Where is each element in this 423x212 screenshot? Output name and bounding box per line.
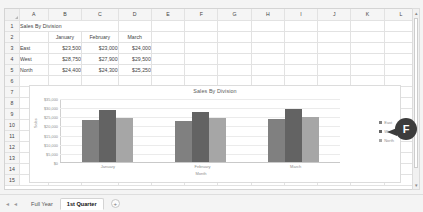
cell-a5-north[interactable]: North: [19, 64, 48, 75]
cell-c4[interactable]: $27,900: [82, 53, 119, 64]
cell-k2[interactable]: [351, 31, 384, 42]
cell-a3-east[interactable]: East: [19, 42, 48, 53]
cell-k4[interactable]: [351, 53, 384, 64]
cell-f3[interactable]: [185, 42, 218, 53]
embedded-chart[interactable]: Sales By Division Sales $35,000 $30,000 …: [29, 85, 401, 183]
cell-k3[interactable]: [351, 42, 384, 53]
legend-item-north[interactable]: North: [379, 138, 394, 143]
column-header-f[interactable]: F: [185, 9, 218, 20]
cell-j2[interactable]: [318, 31, 351, 42]
cell-d2-march[interactable]: March: [118, 31, 151, 42]
row-header-10[interactable]: 10: [5, 119, 19, 130]
vertical-scrollbar[interactable]: ▴ ▾: [412, 8, 420, 190]
cell-b5[interactable]: $24,400: [48, 64, 81, 75]
cell-f2[interactable]: [185, 31, 218, 42]
column-header-c[interactable]: C: [82, 9, 119, 20]
cell-d1[interactable]: [118, 20, 151, 31]
row-header-7[interactable]: 7: [5, 86, 19, 97]
cell-g4[interactable]: [218, 53, 251, 64]
column-header-e[interactable]: E: [151, 9, 184, 20]
row-header-1[interactable]: 1: [5, 20, 19, 31]
cell-b4[interactable]: $28,750: [48, 53, 81, 64]
legend-item-east[interactable]: East: [379, 120, 394, 125]
cell-i5[interactable]: [284, 64, 317, 75]
cell-g1[interactable]: [218, 20, 251, 31]
bar-west-february[interactable]: [192, 112, 209, 162]
cell-a4-west[interactable]: West: [19, 53, 48, 64]
bar-west-january[interactable]: [99, 110, 116, 162]
cell-e1[interactable]: [151, 20, 184, 31]
cell-f1[interactable]: [185, 20, 218, 31]
cell-c5[interactable]: $24,300: [82, 64, 119, 75]
row-header-15[interactable]: 15: [5, 174, 19, 185]
select-all-corner[interactable]: [5, 9, 19, 20]
cell-h2[interactable]: [251, 31, 284, 42]
bar-west-march[interactable]: [285, 109, 302, 162]
row-header-3[interactable]: 3: [5, 42, 19, 53]
cell-k5[interactable]: [351, 64, 384, 75]
scroll-up-arrow-icon[interactable]: ▴: [413, 9, 419, 17]
cell-d4[interactable]: $29,500: [118, 53, 151, 64]
cell-j1[interactable]: [318, 20, 351, 31]
column-header-h[interactable]: H: [251, 9, 284, 20]
cell-d3[interactable]: $24,000: [118, 42, 151, 53]
cell-g3[interactable]: [218, 42, 251, 53]
row-header-6[interactable]: 6: [5, 75, 19, 86]
row-header-9[interactable]: 9: [5, 108, 19, 119]
row-header-12[interactable]: 12: [5, 141, 19, 152]
sheet-nav-first-icon[interactable]: ◂: [6, 200, 9, 207]
row-header-5[interactable]: 5: [5, 64, 19, 75]
cell-k1[interactable]: [351, 20, 384, 31]
column-header-d[interactable]: D: [118, 9, 151, 20]
sheet-nav-arrows[interactable]: ◂ ◂: [6, 200, 17, 207]
bar-north-march[interactable]: [302, 117, 319, 162]
bar-east-january[interactable]: [82, 120, 99, 162]
add-sheet-button[interactable]: +: [111, 199, 120, 208]
column-header-k[interactable]: K: [351, 9, 384, 20]
column-header-b[interactable]: B: [48, 9, 81, 20]
cell-j5[interactable]: [318, 64, 351, 75]
cell-i1[interactable]: [284, 20, 317, 31]
cell-e3[interactable]: [151, 42, 184, 53]
cell-f5[interactable]: [185, 64, 218, 75]
column-header-i[interactable]: I: [284, 9, 317, 20]
scroll-down-arrow-icon[interactable]: ▾: [413, 181, 419, 189]
sheet-tab-1st-quarter[interactable]: 1st Quarter: [60, 198, 104, 210]
cell-h3[interactable]: [251, 42, 284, 53]
row-header-14[interactable]: 14: [5, 163, 19, 174]
cell-c2-february[interactable]: February: [82, 31, 119, 42]
cell-b3[interactable]: $23,500: [48, 42, 81, 53]
cell-j4[interactable]: [318, 53, 351, 64]
cell-h5[interactable]: [251, 64, 284, 75]
bar-north-january[interactable]: [116, 118, 133, 162]
cell-a1-title[interactable]: Sales By Division: [19, 20, 118, 31]
cell-i3[interactable]: [284, 42, 317, 53]
cell-b2-january[interactable]: January: [48, 31, 81, 42]
row-header-11[interactable]: 11: [5, 130, 19, 141]
cell-d5[interactable]: $25,250: [118, 64, 151, 75]
cell-f4[interactable]: [185, 53, 218, 64]
bar-east-february[interactable]: [175, 121, 192, 162]
row-header-2[interactable]: 2: [5, 31, 19, 42]
cell-g5[interactable]: [218, 64, 251, 75]
row-header-4[interactable]: 4: [5, 53, 19, 64]
cell-e2[interactable]: [151, 31, 184, 42]
worksheet-grid[interactable]: A B C D E F G H I J K L 1 Sal: [4, 8, 419, 190]
cell-c3[interactable]: $23,000: [82, 42, 119, 53]
column-header-a[interactable]: A: [19, 9, 48, 20]
cell-h4[interactable]: [251, 53, 284, 64]
cell-j3[interactable]: [318, 42, 351, 53]
row-header-13[interactable]: 13: [5, 152, 19, 163]
cell-h1[interactable]: [251, 20, 284, 31]
cell-a2-blank[interactable]: [19, 31, 48, 42]
cell-e5[interactable]: [151, 64, 184, 75]
sheet-tab-full-year[interactable]: Full Year: [25, 199, 59, 209]
column-header-j[interactable]: J: [318, 9, 351, 20]
sheet-nav-prev-icon[interactable]: ◂: [14, 200, 17, 207]
cell-g2[interactable]: [218, 31, 251, 42]
cell-e4[interactable]: [151, 53, 184, 64]
column-header-g[interactable]: G: [218, 9, 251, 20]
vertical-scroll-thumb[interactable]: [414, 18, 418, 168]
bar-north-february[interactable]: [209, 118, 226, 162]
row-header-8[interactable]: 8: [5, 97, 19, 108]
